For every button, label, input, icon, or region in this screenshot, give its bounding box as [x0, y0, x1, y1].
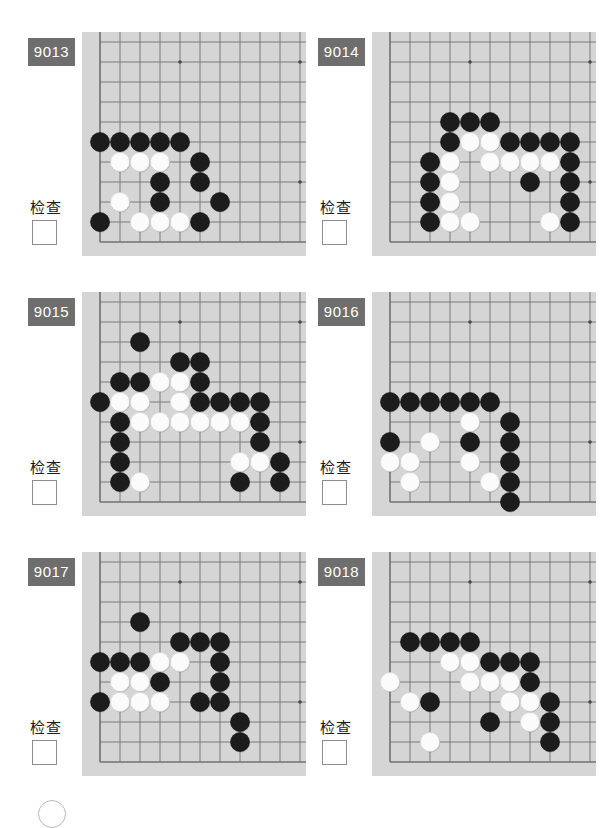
go-board-9017[interactable] — [82, 552, 306, 776]
board-star-point — [468, 580, 472, 584]
board-star-point — [298, 60, 302, 64]
puzzle-sidebar: 9016 检查 — [310, 290, 372, 550]
check-checkbox[interactable] — [322, 480, 347, 505]
check-checkbox[interactable] — [32, 740, 57, 765]
puzzle-id-badge: 9018 — [318, 558, 365, 586]
check-label: 检查 — [30, 716, 62, 737]
check-checkbox[interactable] — [322, 220, 347, 245]
puzzle-id-badge: 9015 — [28, 298, 75, 326]
puzzle-id-badge: 9014 — [318, 38, 365, 66]
check-label: 检查 — [30, 196, 62, 217]
puzzle-card-9016: 9016 检查 — [310, 290, 599, 550]
puzzle-card-9018: 9018 检查 — [310, 550, 599, 810]
board-star-point — [298, 180, 302, 184]
puzzle-sidebar: 9013 检查 — [20, 30, 82, 290]
puzzle-sidebar: 9017 检查 — [20, 550, 82, 810]
board-star-point — [178, 320, 182, 324]
go-board-9015[interactable] — [82, 292, 306, 516]
board-star-point — [588, 60, 592, 64]
go-board-9014[interactable] — [372, 32, 596, 256]
check-label: 检查 — [30, 456, 62, 477]
puzzle-sidebar: 9014 检查 — [310, 30, 372, 290]
board-star-point — [178, 60, 182, 64]
board-star-point — [588, 580, 592, 584]
board-star-point — [298, 700, 302, 704]
check-checkbox[interactable] — [32, 480, 57, 505]
board-star-point — [298, 580, 302, 584]
board-star-point — [468, 320, 472, 324]
puzzle-id-badge: 9016 — [318, 298, 365, 326]
board-star-point — [468, 60, 472, 64]
check-checkbox[interactable] — [32, 220, 57, 245]
check-label: 检查 — [320, 456, 352, 477]
puzzle-card-9014: 9014 检查 — [310, 30, 599, 290]
board-star-point — [298, 440, 302, 444]
puzzle-id-badge: 9013 — [28, 38, 75, 66]
page-footer-circle — [38, 800, 66, 828]
puzzle-card-9013: 9013 检查 — [20, 30, 309, 290]
puzzle-card-9015: 9015 检查 — [20, 290, 309, 550]
puzzle-card-9017: 9017 检查 — [20, 550, 309, 810]
go-board-9013[interactable] — [82, 32, 306, 256]
board-star-point — [588, 180, 592, 184]
puzzle-sidebar: 9018 检查 — [310, 550, 372, 810]
board-star-point — [178, 580, 182, 584]
check-label: 检查 — [320, 196, 352, 217]
check-checkbox[interactable] — [322, 740, 347, 765]
go-board-9018[interactable] — [372, 552, 596, 776]
board-star-point — [588, 440, 592, 444]
go-board-9016[interactable] — [372, 292, 596, 516]
board-star-point — [588, 700, 592, 704]
check-label: 检查 — [320, 716, 352, 737]
board-star-point — [588, 320, 592, 324]
puzzle-id-badge: 9017 — [28, 558, 75, 586]
board-star-point — [298, 320, 302, 324]
puzzle-sidebar: 9015 检查 — [20, 290, 82, 550]
